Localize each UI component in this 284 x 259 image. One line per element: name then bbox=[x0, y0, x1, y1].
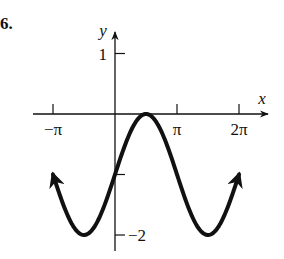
axis-labels: −ππ2π1−2xy bbox=[44, 21, 266, 245]
sine-curve bbox=[53, 114, 239, 235]
x-tick-label: −π bbox=[44, 120, 63, 139]
problem-number: 6. bbox=[0, 14, 13, 34]
x-tick-label: 2π bbox=[230, 120, 248, 139]
y-axis-label: y bbox=[97, 21, 107, 40]
graph-figure: 6. −ππ2π1−2xy bbox=[0, 0, 284, 259]
x-tick-label: π bbox=[173, 120, 182, 139]
x-axis-label: x bbox=[257, 89, 266, 108]
y-tick-label: 1 bbox=[99, 45, 108, 64]
y-tick-label: −2 bbox=[128, 226, 146, 245]
plot-area: −ππ2π1−2xy bbox=[0, 0, 284, 259]
ticks bbox=[53, 54, 239, 236]
